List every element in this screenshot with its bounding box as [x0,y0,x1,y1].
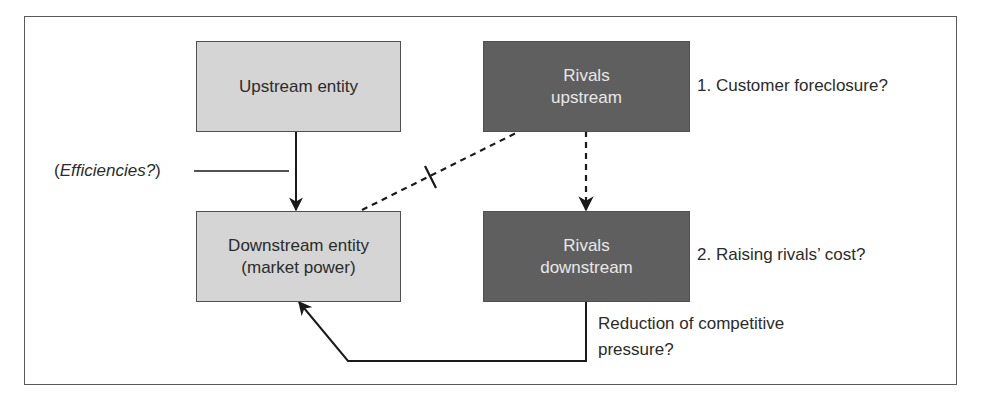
rivals-upstream-label-line2: upstream [551,87,622,109]
rivals-downstream-label-line2: downstream [540,257,633,279]
upstream-entity-label: Upstream entity [239,76,358,98]
downstream-entity-label: Downstream entity [228,235,369,257]
rivals-upstream-box: Rivals upstream [483,41,690,132]
reduction-competitive-pressure-line2: pressure? [598,339,674,361]
rivals-upstream-label-line1: Rivals [563,65,609,87]
rivals-downstream-box: Rivals downstream [483,211,690,302]
downstream-entity-box: Downstream entity (market power) [196,211,401,302]
efficiencies-close-paren: ) [155,161,161,180]
reduction-competitive-pressure-line1: Reduction of competitive [598,313,784,335]
efficiencies-annotation: (Efficiencies?) [54,160,161,182]
raising-rivals-cost-annotation: 2. Raising rivals’ cost? [697,244,866,266]
upstream-entity-box: Upstream entity [196,41,401,132]
rivals-downstream-label-line1: Rivals [563,235,609,257]
downstream-entity-sublabel: (market power) [241,257,355,279]
customer-foreclosure-annotation: 1. Customer foreclosure? [697,75,888,97]
efficiencies-text: Efficiencies? [60,161,155,180]
